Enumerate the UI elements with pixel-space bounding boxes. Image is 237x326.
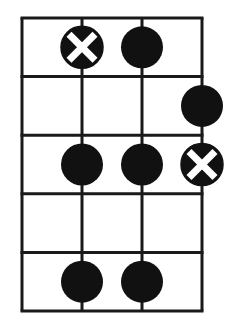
dot-circle: [121, 261, 163, 303]
dot-circle: [61, 261, 103, 303]
note-dot: [61, 261, 103, 303]
note-dot: [121, 26, 163, 68]
fretboard-dots: [61, 26, 223, 302]
dot-circle: [121, 144, 163, 186]
dot-circle: [181, 85, 223, 127]
note-dot: [181, 85, 223, 127]
note-dot: [121, 144, 163, 186]
note-dot: [61, 144, 103, 186]
dot-circle: [121, 26, 163, 68]
fretboard-grid: [21, 18, 204, 311]
dot-circle: [61, 144, 103, 186]
note-dot: [121, 261, 163, 303]
fretboard-diagram: [0, 0, 237, 326]
x-marker-dot: [61, 26, 103, 68]
x-marker-dot: [181, 144, 223, 186]
